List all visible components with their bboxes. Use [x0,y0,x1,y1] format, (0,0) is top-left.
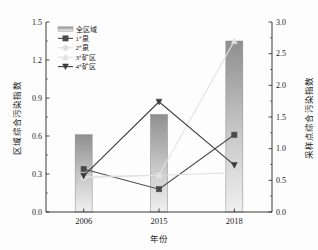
y-tick-left-0.3: 0.3 [32,170,42,179]
data-point-marker [63,36,68,41]
data-point-marker [63,45,68,50]
y-tick-right-2.0: 2.0 [276,81,286,90]
y-tick-left-0.6: 0.6 [32,132,42,141]
chart-legend: 全区域1#泉2#泉3#矿区4#矿区 [58,25,97,72]
legend-item-2#泉[interactable]: 2#泉 [58,43,89,52]
y-tick-left-0.0: 0.0 [32,208,42,217]
x-tick-2006: 2006 [75,216,92,226]
x-axis-title: 年份 [0,232,318,244]
y-tick-right-1.0: 1.0 [276,144,286,153]
legend-swatch-bar [58,27,73,32]
y-axis-left-title: 区域综合污染指数 [10,58,22,178]
legend-label-2#泉: 2#泉 [76,43,89,52]
y-axis-right-title: 采样点综合污染指数 [302,58,314,178]
legend-item-1#泉[interactable]: 1#泉 [58,34,89,43]
y-tick-left-1.2: 1.2 [32,56,42,65]
legend-item-全区域[interactable]: 全区域 [58,25,97,34]
legend-item-4#矿区[interactable]: 4#矿区 [58,62,96,71]
x-tick-2018: 2018 [226,216,243,226]
legend-label-1#泉: 1#泉 [76,34,89,43]
y-tick-left-1.5: 1.5 [32,18,42,27]
data-point-marker [156,187,161,192]
y-tick-right-1.5: 1.5 [276,113,286,122]
chart-canvas: 0.00.30.60.91.21.50.00.51.01.52.02.53.02… [0,0,318,250]
y-tick-right-0.0: 0.0 [276,208,286,217]
legend-label-全区域: 全区域 [76,25,97,34]
x-tick-2015: 2015 [151,216,168,226]
y-tick-right-0.5: 0.5 [276,176,286,185]
bar-2018 [226,41,243,212]
dual-axis-pollution-chart: 0.00.30.60.91.21.50.00.51.01.52.02.53.02… [0,0,318,250]
y-tick-left-0.9: 0.9 [32,94,42,103]
y-tick-right-2.5: 2.5 [276,49,286,58]
y-tick-right-3.0: 3.0 [276,18,286,27]
data-point-marker [81,166,86,171]
legend-item-3#矿区[interactable]: 3#矿区 [58,53,96,62]
bar-2015 [151,114,168,212]
legend-label-4#矿区: 4#矿区 [76,62,96,71]
legend-label-3#矿区: 3#矿区 [76,53,96,62]
data-point-marker [232,170,237,175]
data-point-marker [232,132,237,137]
